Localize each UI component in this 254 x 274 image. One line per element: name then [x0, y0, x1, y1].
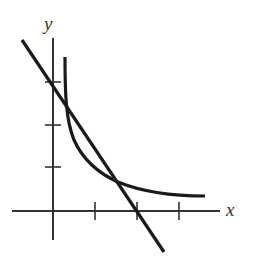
graph-diagram: y x — [0, 0, 254, 274]
decreasing-line — [22, 40, 164, 252]
decreasing-curve — [65, 57, 205, 196]
y-axis-label: y — [42, 13, 53, 34]
x-axis-label: x — [225, 199, 235, 220]
